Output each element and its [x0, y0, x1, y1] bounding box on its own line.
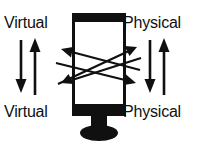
label-virtual-bottom: Virtual — [4, 104, 48, 120]
label-physical-bottom: Physical — [123, 104, 181, 120]
label-physical-top: Physical — [123, 15, 181, 31]
right-vertical-arrow-up — [159, 38, 170, 95]
left-vertical-arrow-up — [30, 38, 41, 95]
diagram-canvas: Virtual Physical Virtual Physical — [0, 0, 198, 145]
label-virtual-top: Virtual — [4, 15, 48, 31]
right-vertical-arrow-down — [145, 40, 156, 93]
left-vertical-arrow-down — [16, 40, 27, 93]
